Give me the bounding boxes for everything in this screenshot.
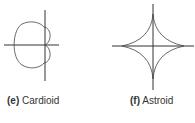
astroid-caption-letter: (f) [130,95,140,106]
astroid-caption: (f) Astroid [130,95,173,106]
cardioid-caption-letter: (e) [7,95,19,106]
astroid-figure [112,4,194,90]
cardioid-caption: (e) Cardioid [7,95,59,106]
cardioid-caption-text: Cardioid [22,95,59,106]
astroid-caption-text: Astroid [142,95,173,106]
cardioid-figure [4,10,59,81]
